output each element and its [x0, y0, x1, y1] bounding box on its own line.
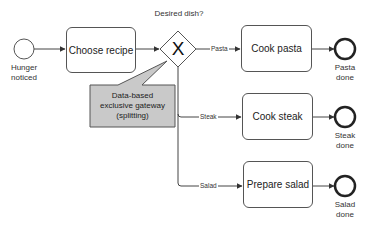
- end-event-steak-label-line1: Steak: [330, 131, 360, 141]
- end-event-salad-circle: [335, 176, 355, 196]
- annotation-line1: Data-based: [90, 91, 175, 101]
- annotation-line2: exclusive gateway: [90, 101, 175, 111]
- end-event-pasta-label-line2: done: [330, 73, 360, 83]
- flow-label-steak: Steak: [199, 113, 218, 121]
- diagram-canvas: [0, 0, 374, 229]
- flow-gateway-branch-line: [178, 67, 242, 186]
- task-prepare-salad-label: Prepare salad: [247, 179, 309, 190]
- start-event-circle: [14, 39, 34, 59]
- flow-label-pasta: Pasta: [210, 45, 229, 53]
- annotation-text: Data-based exclusive gateway (splitting): [90, 91, 175, 121]
- task-cook-pasta[interactable]: Cook pasta: [241, 25, 312, 72]
- start-event-label-line2: noticed: [4, 73, 44, 83]
- end-event-salad-label-line2: done: [330, 210, 360, 220]
- end-event-pasta-label-line1: Pasta: [330, 63, 360, 73]
- start-event-label: Hunger noticed: [4, 63, 44, 83]
- task-choose-recipe[interactable]: Choose recipe: [66, 27, 136, 73]
- gateway-x-icon: X: [170, 38, 186, 60]
- end-event-steak-label: Steak done: [330, 131, 360, 151]
- task-cook-pasta-label: Cook pasta: [251, 43, 302, 54]
- task-choose-recipe-label: Choose recipe: [69, 45, 133, 56]
- task-cook-steak-label: Cook steak: [252, 111, 302, 122]
- end-event-pasta-label: Pasta done: [330, 63, 360, 83]
- task-cook-steak[interactable]: Cook steak: [242, 93, 313, 140]
- end-event-salad-label: Salad done: [330, 200, 360, 220]
- end-event-salad-label-line1: Salad: [330, 200, 360, 210]
- gateway-question-label: Desired dish?: [150, 9, 208, 19]
- start-event-label-line1: Hunger: [4, 63, 44, 73]
- end-event-steak-circle: [335, 107, 355, 127]
- task-prepare-salad[interactable]: Prepare salad: [243, 161, 313, 208]
- annotation-line3: (splitting): [90, 111, 175, 121]
- end-event-steak-label-line2: done: [330, 141, 360, 151]
- end-event-pasta-circle: [335, 39, 355, 59]
- flow-label-salad: Salad: [199, 182, 218, 190]
